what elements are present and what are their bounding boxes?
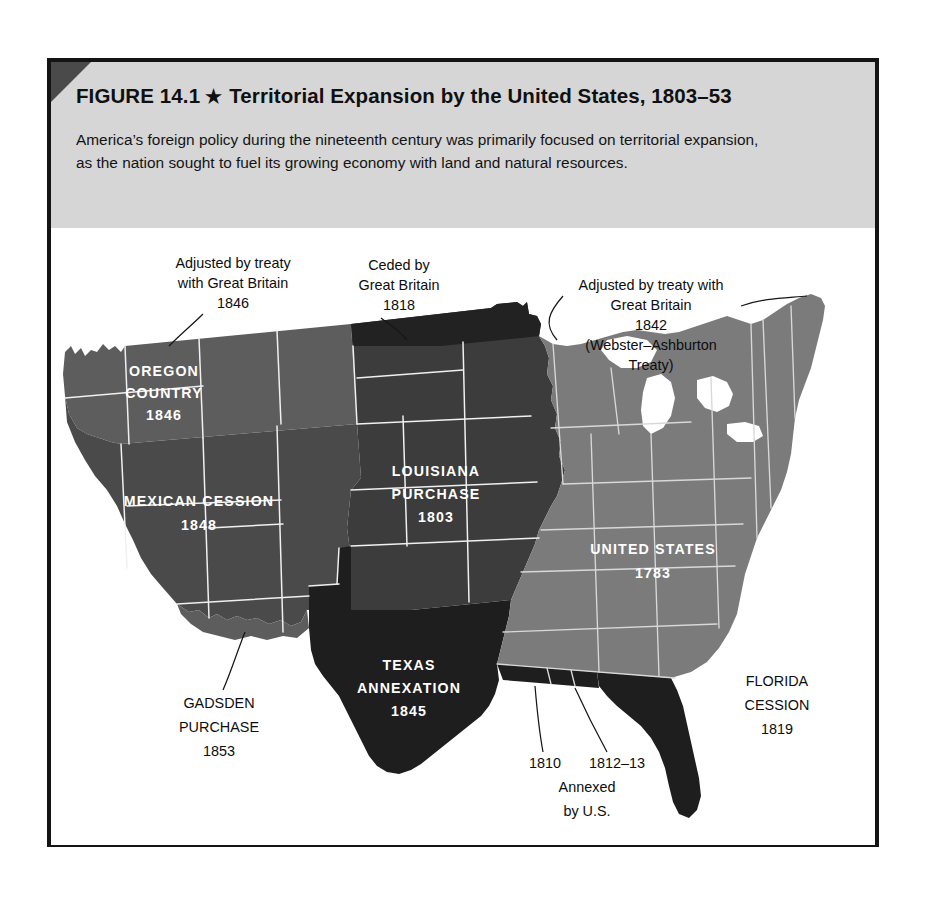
callout-treaty-1846-line1: Adjusted by treaty <box>175 255 291 271</box>
label-texas-line1: TEXAS <box>382 657 435 673</box>
label-mexican-cession-line2: 1848 <box>181 517 217 533</box>
region-oregon-country <box>63 324 357 444</box>
label-louisiana-line1: LOUISIANA <box>392 463 480 479</box>
callout-webster-line2: Great Britain <box>611 297 692 313</box>
callout-ceded-1818-line1: Ceded by <box>368 257 430 273</box>
label-oregon-line3: 1846 <box>146 407 182 423</box>
callout-webster-line4: (Webster–Ashburton <box>585 337 717 353</box>
callout-gulf-leader-1810 <box>535 686 543 752</box>
callout-gadsden-line3: 1853 <box>203 743 235 759</box>
callout-florida-cession: FLORIDA CESSION 1819 <box>745 673 810 737</box>
callout-florida-line3: 1819 <box>761 721 793 737</box>
figure-container: FIGURE 14.1★Territorial Expansion by the… <box>47 58 879 847</box>
callout-gadsden-purchase: GADSDEN PURCHASE 1853 <box>179 632 259 759</box>
label-texas-line2: ANNEXATION <box>357 680 461 696</box>
callout-ceded-1818-line3: 1818 <box>383 297 415 313</box>
callout-florida-line1: FLORIDA <box>746 673 809 689</box>
callout-webster-line3: 1842 <box>635 317 667 333</box>
figure-title-text: Territorial Expansion by the United Stat… <box>229 84 732 107</box>
callout-gadsden-line2: PURCHASE <box>179 719 259 735</box>
label-united-states-line1: UNITED STATES <box>590 541 716 557</box>
callout-gulf-1812: 1812–13 <box>589 755 645 771</box>
callout-treaty-1846-line3: 1846 <box>217 295 249 311</box>
label-mexican-cession-line1: MEXICAN CESSION <box>124 493 274 509</box>
callout-treaty-1846-line2: with Great Britain <box>177 275 288 291</box>
region-florida-cession <box>597 672 701 818</box>
label-oregon-line2: COUNTRY <box>125 385 203 401</box>
callout-gulf-by-us: by U.S. <box>563 803 610 819</box>
figure-caption: America’s foreign policy during the nine… <box>76 128 766 175</box>
callout-webster-line5: Treaty) <box>628 357 673 373</box>
label-texas-line3: 1845 <box>391 703 427 719</box>
label-louisiana-line3: 1803 <box>418 509 454 525</box>
callout-webster-line1: Adjusted by treaty with <box>579 277 724 293</box>
territorial-expansion-map: OREGON COUNTRY 1846 MEXICAN CESSION 1848… <box>51 228 875 845</box>
figure-number: FIGURE 14.1 <box>76 84 200 107</box>
figure-header-band: FIGURE 14.1★Territorial Expansion by the… <box>51 62 875 228</box>
florida-cession-fill <box>597 672 701 818</box>
figure-title: FIGURE 14.1★Territorial Expansion by the… <box>76 84 861 108</box>
callout-gulf-1810: 1810 <box>529 755 561 771</box>
callout-florida-line2: CESSION <box>745 697 810 713</box>
label-oregon-line1: OREGON <box>129 363 199 379</box>
callout-ceded-1818-line2: Great Britain <box>359 277 440 293</box>
label-united-states-line2: 1783 <box>635 565 671 581</box>
callout-webster-leader-left <box>549 296 563 340</box>
label-louisiana-line2: PURCHASE <box>392 486 481 502</box>
callout-gulf-leader-1812 <box>575 688 607 752</box>
oregon-country-fill <box>63 324 357 444</box>
callout-gadsden-line1: GADSDEN <box>183 695 254 711</box>
star-icon: ★ <box>200 86 229 107</box>
map-canvas: OREGON COUNTRY 1846 MEXICAN CESSION 1848… <box>51 228 875 845</box>
callout-gadsden-leader <box>223 632 245 690</box>
callout-gulf-annexed: Annexed <box>559 779 616 795</box>
